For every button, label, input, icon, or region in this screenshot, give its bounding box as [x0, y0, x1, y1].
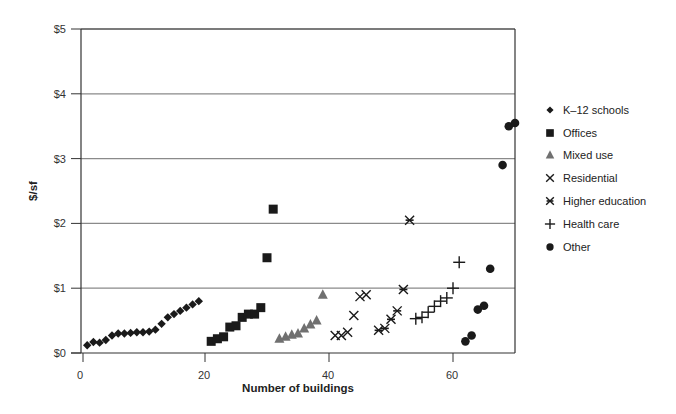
plus-marker: [545, 219, 555, 229]
x-axis: 0204060: [77, 353, 458, 381]
series-health-care: [410, 256, 465, 324]
triangle-icon: [546, 150, 555, 158]
x-icon: [546, 174, 554, 182]
x-tick-label: 60: [446, 369, 458, 381]
legend-item: Health care: [545, 218, 619, 230]
series-offices: [207, 205, 278, 346]
series-other: [461, 119, 519, 346]
square-marker: [269, 205, 278, 214]
x-tick-label: 40: [322, 369, 334, 381]
legend-item: Higher education: [546, 195, 646, 207]
series-higher-education: [374, 216, 414, 335]
square-marker: [546, 129, 554, 137]
legend-label: Mixed use: [563, 149, 613, 161]
plus-marker: [447, 282, 459, 294]
plot-frame: [71, 29, 515, 353]
plus-icon: [545, 219, 555, 229]
legend-label: Offices: [563, 127, 598, 139]
series-residential: [331, 290, 371, 340]
square-icon: [546, 129, 554, 137]
y-tick-label: $5: [54, 23, 66, 35]
plus-marker: [410, 313, 422, 325]
plus-marker: [428, 300, 440, 312]
legend-label: Other: [563, 241, 591, 253]
diamond-icon: [546, 106, 553, 113]
diamond-marker: [108, 331, 116, 339]
x-tick-label: 20: [198, 369, 210, 381]
gridlines: [81, 29, 515, 288]
triangle-marker: [312, 315, 322, 325]
legend-label: Higher education: [563, 195, 646, 207]
y-tick-label: $1: [54, 282, 66, 294]
plus-marker: [453, 256, 465, 268]
plus-marker: [422, 306, 434, 318]
legend-item: K–12 schools: [546, 104, 629, 116]
x-tick-label: 0: [77, 369, 83, 381]
asterisk-marker: [546, 197, 554, 205]
square-marker: [263, 253, 272, 262]
legend-item: Offices: [546, 127, 597, 139]
diamond-marker: [157, 320, 165, 328]
y-tick-label: $2: [54, 217, 66, 229]
data-points: [83, 119, 519, 350]
asterisk-marker: [387, 315, 396, 324]
legend-item: Mixed use: [546, 149, 613, 161]
circle-marker: [546, 243, 553, 250]
series-k-12-schools: [83, 297, 203, 349]
diamond-marker: [151, 325, 159, 333]
plus-marker: [416, 311, 428, 323]
asterisk-marker: [399, 285, 408, 294]
square-marker: [256, 303, 265, 312]
diamond-marker: [145, 327, 153, 335]
x-axis-title: Number of buildings: [242, 382, 354, 394]
legend-item: Other: [546, 241, 591, 253]
legend-item: Residential: [546, 172, 617, 184]
legend: K–12 schoolsOfficesMixed useResidentialH…: [545, 104, 646, 253]
circle-marker: [467, 331, 476, 340]
x-marker: [546, 174, 554, 182]
y-axis-title: $/sf: [27, 181, 39, 201]
y-tick-label: $0: [54, 347, 66, 359]
square-marker: [219, 332, 228, 341]
circle-marker: [486, 264, 495, 273]
scatter-chart: $0$1$2$3$4$5 0204060 $/sf Number of buil…: [0, 0, 676, 414]
square-marker: [232, 321, 241, 330]
asterisk-marker: [393, 306, 402, 315]
legend-label: Health care: [563, 218, 619, 230]
circle-marker: [511, 119, 520, 128]
legend-label: Residential: [563, 172, 617, 184]
asterisk-marker: [374, 326, 383, 335]
triangle-marker: [546, 150, 555, 158]
asterisk-marker: [380, 324, 389, 333]
x-marker: [349, 311, 358, 320]
y-tick-label: $4: [54, 88, 66, 100]
asterisk-icon: [546, 197, 554, 205]
y-axis: $0$1$2$3$4$5: [54, 23, 81, 359]
x-marker: [362, 290, 371, 299]
y-tick-label: $3: [54, 153, 66, 165]
x-marker: [356, 292, 365, 301]
series-mixed-use: [274, 289, 327, 343]
diamond-marker: [546, 106, 553, 113]
legend-label: K–12 schools: [563, 104, 630, 116]
circle-icon: [546, 243, 553, 250]
circle-marker: [480, 301, 489, 310]
plus-marker: [441, 292, 453, 304]
triangle-marker: [318, 289, 328, 299]
plus-marker: [435, 295, 447, 307]
circle-marker: [498, 161, 507, 170]
